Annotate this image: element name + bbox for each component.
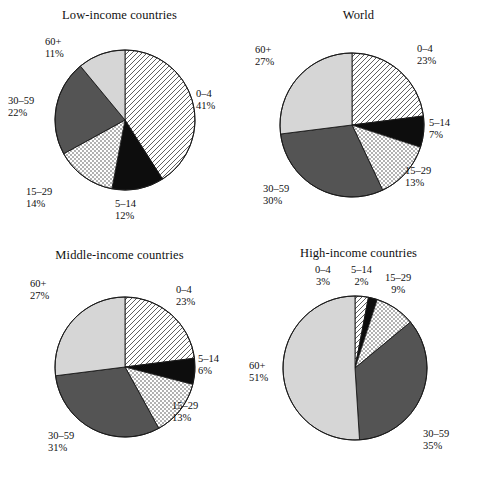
slice-label-range: 5–14 (198, 353, 219, 365)
slice-label-world-1: 5–147% (429, 117, 450, 142)
chart-panel-high-income: High-income countries 0–43%5–142%15–299%… (239, 240, 478, 480)
slice-label-percent: 23% (417, 55, 436, 67)
slice-label-percent: 3% (315, 276, 331, 288)
slice-label-percent: 23% (176, 296, 195, 308)
chart-panel-low-income: Low-income countries 0–441%5–1412%15–291… (0, 0, 239, 240)
slice-label-range: 60+ (249, 360, 268, 372)
slice-label-range: 15–29 (172, 400, 198, 412)
slice-label-percent: 13% (172, 412, 198, 424)
slice-label-middle-0: 0–423% (176, 284, 195, 309)
slice-label-percent: 6% (198, 365, 219, 377)
slice-label-range: 0–4 (417, 43, 436, 55)
slice-label-range: 0–4 (196, 88, 215, 100)
slice-label-low-3: 30–5922% (8, 95, 34, 120)
chart-panel-world: World 0–423%5–147%15–2913%30–5930%60+27% (239, 0, 478, 240)
slice-label-high-0: 0–43% (315, 264, 331, 289)
slice-label-middle-2: 15–2913% (172, 400, 198, 425)
slice-label-range: 15–29 (405, 165, 431, 177)
slice-label-percent: 51% (249, 372, 268, 384)
slice-label-percent: 30% (263, 195, 289, 207)
slice-label-percent: 14% (26, 198, 52, 210)
slice-label-high-4: 60+51% (249, 360, 268, 385)
pie-slice-middle-60+ (55, 297, 125, 376)
slice-label-range: 30–59 (8, 95, 34, 107)
slice-label-range: 5–14 (429, 117, 450, 129)
slice-label-range: 60+ (30, 278, 49, 290)
slice-label-percent: 35% (423, 440, 449, 452)
slice-label-percent: 27% (30, 290, 49, 302)
slice-label-percent: 7% (429, 129, 450, 141)
slice-label-percent: 9% (385, 284, 411, 296)
slice-label-percent: 11% (45, 48, 64, 60)
slice-label-percent: 12% (115, 210, 136, 222)
slice-label-middle-3: 30–5931% (48, 430, 74, 455)
slice-label-percent: 2% (351, 276, 372, 288)
slice-label-world-3: 30–5930% (263, 183, 289, 208)
slice-label-percent: 22% (8, 107, 34, 119)
slice-label-middle-1: 5–146% (198, 353, 219, 378)
slice-label-range: 30–59 (48, 430, 74, 442)
slice-label-world-4: 60+27% (255, 44, 274, 69)
slice-label-high-2: 15–299% (385, 272, 411, 297)
slice-label-range: 5–14 (115, 198, 136, 210)
slice-label-low-1: 5–1412% (115, 198, 136, 223)
slice-label-range: 5–14 (351, 264, 372, 276)
slice-label-high-3: 30–5935% (423, 428, 449, 453)
slice-label-percent: 13% (405, 177, 431, 189)
pie-slice-world-0_4 (352, 53, 423, 125)
slice-label-range: 0–4 (315, 264, 331, 276)
slice-label-percent: 41% (196, 100, 215, 112)
slice-label-percent: 31% (48, 442, 74, 454)
slice-label-low-0: 0–441% (196, 88, 215, 113)
slice-label-world-2: 15–2913% (405, 165, 431, 190)
slice-label-middle-4: 60+27% (30, 278, 49, 303)
slice-label-low-4: 60+11% (45, 36, 64, 61)
chart-panel-middle-income: Middle-income countries 0–423%5–146%15–2… (0, 240, 239, 480)
slice-label-low-2: 15–2914% (26, 186, 52, 211)
pie-slice-high-60+ (283, 296, 360, 440)
slice-label-percent: 27% (255, 56, 274, 68)
slice-label-range: 15–29 (26, 186, 52, 198)
slice-label-range: 60+ (255, 44, 274, 56)
slice-label-range: 60+ (45, 36, 64, 48)
slice-label-range: 30–59 (423, 428, 449, 440)
slice-label-range: 30–59 (263, 183, 289, 195)
pie-slice-world-60+ (280, 53, 352, 134)
slice-label-world-0: 0–423% (417, 43, 436, 68)
slice-label-range: 0–4 (176, 284, 195, 296)
slice-label-high-1: 5–142% (351, 264, 372, 289)
slice-label-range: 15–29 (385, 272, 411, 284)
